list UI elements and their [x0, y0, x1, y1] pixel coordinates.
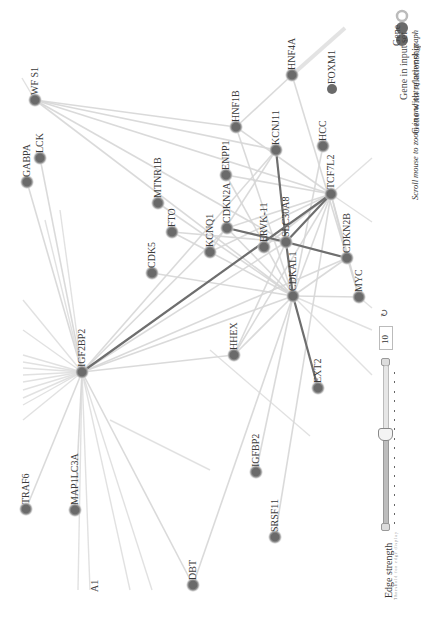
gene-node[interactable] [286, 289, 300, 303]
edge [35, 100, 293, 296]
gene-node[interactable] [203, 245, 217, 259]
gene-node[interactable] [68, 503, 82, 517]
gene-node[interactable] [311, 381, 325, 395]
edge [210, 350, 310, 436]
edge-strength-slider-thumb[interactable] [378, 428, 393, 441]
node-label: DBT [188, 560, 198, 580]
node-label: CDK5 [147, 242, 157, 268]
edge [27, 182, 82, 372]
edge [82, 258, 347, 372]
node-label: WF S1 [30, 67, 40, 95]
edge-strength-sublabel: Threshold for edge display [393, 531, 398, 600]
gene-node[interactable] [227, 348, 241, 362]
slider-tick [394, 372, 395, 374]
node-label: TCF7L2 [326, 155, 336, 189]
edge [236, 75, 292, 127]
gene-node[interactable] [145, 266, 159, 280]
edge-strength-slider-upper [383, 365, 389, 432]
slider-tick [394, 522, 395, 524]
legend-gene-input-label: Gene in input set [399, 32, 409, 100]
slider-tick [394, 400, 395, 402]
gene-node[interactable] [229, 120, 243, 134]
refresh-icon[interactable]: ↻ [378, 309, 391, 318]
legend-sample-node [327, 84, 337, 94]
node-label: GABPA [22, 144, 32, 177]
gene-node[interactable] [220, 221, 234, 235]
node-label: ERVK-11 [259, 203, 269, 242]
gene-node[interactable] [279, 235, 293, 249]
node-label: CDKN2A [222, 182, 232, 223]
gene-node[interactable] [340, 251, 354, 265]
gene-node[interactable] [352, 290, 366, 304]
zoom-hint: Scroll mouse to zoom in and out of netwo… [410, 30, 420, 200]
gene-node[interactable] [219, 168, 233, 182]
legend-gene-relationship-symbol [397, 11, 407, 21]
slider-tick [394, 428, 395, 430]
node-label: ENPP1 [221, 141, 231, 170]
node-label: HNF1B [231, 90, 241, 122]
gene-node[interactable] [324, 187, 338, 201]
slider-min-cap [381, 523, 390, 531]
edge [292, 28, 345, 75]
edge [82, 372, 193, 585]
slider-tick [394, 457, 395, 459]
slider-tick [394, 410, 395, 412]
node-label: FTO [167, 208, 177, 227]
node-label: IGF2BP2 [77, 329, 87, 367]
gene-node[interactable] [285, 68, 299, 82]
gene-node[interactable] [151, 196, 165, 210]
slider-tick [394, 466, 395, 468]
node-label: HNF4A [287, 38, 297, 70]
gene-node[interactable] [268, 530, 282, 544]
gene-node[interactable] [165, 225, 179, 239]
node-label: EXT2 [313, 359, 323, 383]
slider-tick [394, 485, 395, 487]
slider-tick [394, 381, 395, 383]
node-label: HHEX [229, 322, 239, 350]
gene-node[interactable] [20, 175, 34, 189]
node-label: KCNJ11 [271, 110, 281, 145]
edge [35, 100, 331, 194]
node-label: IGFBP2 [251, 434, 261, 467]
node-label: TRAF6 [21, 473, 31, 504]
edge [256, 296, 293, 472]
slider-tick [394, 447, 395, 449]
gene-node[interactable] [28, 93, 42, 107]
gene-node[interactable] [249, 465, 263, 479]
edge [331, 158, 372, 194]
node-label: LCK [35, 133, 45, 153]
slider-tick [394, 438, 395, 440]
edge [110, 420, 210, 470]
slider-tick [394, 391, 395, 393]
node-label: KCNQ1 [205, 214, 215, 247]
gene-node[interactable] [186, 578, 200, 592]
slider-tick [394, 513, 395, 515]
gene-node[interactable] [19, 502, 33, 516]
gene-node[interactable] [269, 143, 283, 157]
gene-node[interactable] [257, 240, 271, 254]
slider-tick [394, 419, 395, 421]
node-label: CDKN2B [342, 213, 352, 253]
node-label: FOXM1 [327, 50, 337, 84]
slider-tick [394, 475, 395, 477]
node-label: MYC [354, 269, 364, 292]
slider-value[interactable]: 10 [380, 335, 390, 344]
gene-node[interactable] [33, 151, 47, 165]
gene-node[interactable] [75, 365, 89, 379]
node-label: MAP1LC3A [70, 453, 80, 505]
node-label: SLC30A8 [281, 196, 291, 237]
edge [293, 296, 359, 297]
node-label: MTNR1B [153, 157, 163, 198]
slider-tick [394, 494, 395, 496]
edge [82, 372, 152, 590]
node-label-partial: A1 [90, 580, 100, 592]
gene-node[interactable] [316, 139, 330, 153]
node-label: HCC [318, 120, 328, 141]
node-label: SRSF11 [270, 499, 280, 532]
slider-tick [394, 504, 395, 506]
node-label: CDKAL1 [288, 252, 298, 291]
edge [23, 372, 82, 420]
